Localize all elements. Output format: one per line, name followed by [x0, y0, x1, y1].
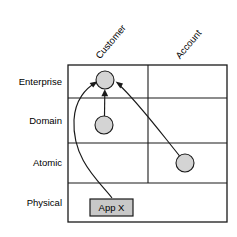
column-headers: Customer Account [93, 22, 204, 61]
column-header-account: Account [173, 27, 204, 61]
row-labels: Enterprise Domain Atomic Physical [19, 76, 63, 208]
node-customer-domain[interactable] [95, 116, 113, 134]
node-app-x[interactable]: App X [90, 199, 133, 216]
column-header-customer: Customer [93, 22, 128, 61]
cell-account-domain[interactable] [148, 98, 227, 143]
matrix-diagram-canvas: Enterprise Domain Atomic Physical Custom… [0, 0, 237, 237]
row-label-atomic: Atomic [33, 157, 62, 168]
app-x-label: App X [99, 202, 126, 213]
row-label-physical: Physical [27, 197, 62, 208]
node-customer-enterprise[interactable] [96, 71, 114, 89]
cell-account-enterprise[interactable] [148, 65, 227, 98]
row-label-domain: Domain [29, 115, 62, 126]
row-label-enterprise: Enterprise [19, 76, 62, 87]
cell-customer-atomic[interactable] [68, 143, 148, 183]
matrix-diagram-root: Enterprise Domain Atomic Physical Custom… [0, 0, 237, 237]
node-account-atomic[interactable] [176, 154, 194, 172]
